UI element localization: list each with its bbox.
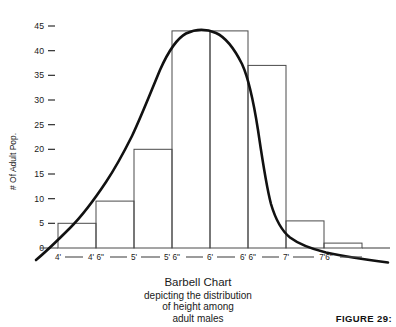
bar-6ft6in	[248, 65, 286, 248]
bar-5ft	[134, 149, 172, 248]
x-tick-label: 5'	[131, 253, 138, 262]
y-tick-label: 35	[34, 70, 44, 80]
bar-4ft6in	[96, 201, 134, 248]
y-tick-label: 45	[34, 21, 44, 31]
y-tick-label: 15	[34, 169, 44, 179]
y-tick-label: 30	[34, 95, 44, 105]
x-tick-label: 7'6"	[319, 253, 333, 262]
y-tick-label: 5	[39, 218, 44, 228]
y-tick-label: 40	[34, 46, 44, 56]
caption-title: Barbell Chart	[0, 276, 396, 290]
x-tick-label: 4' 6"	[88, 253, 104, 262]
caption-line-2: of height among	[0, 301, 396, 313]
y-tick-label: 25	[34, 120, 44, 130]
y-axis-ticks: 45 40 35 30 25 20 15 10 5 0	[34, 21, 55, 253]
x-tick-label: 6'	[207, 253, 214, 262]
bar-7ft6in	[324, 243, 362, 248]
x-tick-label: 7'	[283, 253, 290, 262]
bar-7ft	[286, 221, 324, 248]
y-tick-label: 10	[34, 194, 44, 204]
figure-number-label: FIGURE 29:	[336, 313, 392, 324]
barbell-chart-plot: # Of Adult Pop. 45 40 35 30 25 20 15 10 …	[0, 0, 396, 276]
histogram-bars	[58, 31, 362, 248]
bar-5ft6in	[172, 31, 210, 248]
x-axis-ticks: 4' 4' 6" 5' 5' 6" 6' 6' 6" 7' 7'6"	[55, 253, 362, 262]
caption-line-1: depicting the distribution	[0, 290, 396, 302]
x-tick-label: 4'	[55, 253, 62, 262]
y-tick-label: 20	[34, 144, 44, 154]
x-tick-label: 5' 6"	[164, 253, 180, 262]
x-tick-label: 6' 6"	[240, 253, 256, 262]
figure-container: · · · # Of Adult Pop. 45 40 35 30 25 20 …	[0, 0, 396, 327]
bell-curve-overlay	[36, 30, 388, 263]
y-axis-label: # Of Adult Pop.	[8, 133, 18, 190]
